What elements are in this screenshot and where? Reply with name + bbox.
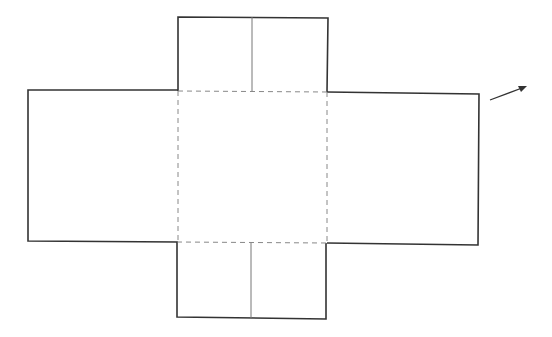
box-net-diagram — [0, 0, 552, 337]
fold-lines — [177, 91, 327, 243]
direction-arrow-icon — [490, 86, 527, 100]
right-flap — [327, 92, 479, 245]
left-flap — [28, 90, 178, 242]
top-flap — [178, 17, 328, 92]
